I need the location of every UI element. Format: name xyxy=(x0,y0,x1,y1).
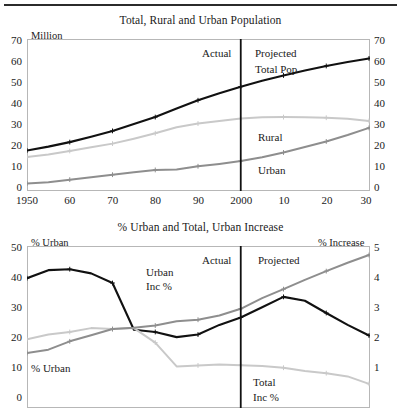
series-marker xyxy=(67,267,72,272)
series-marker xyxy=(196,317,201,322)
top-ytick-20: 20 xyxy=(0,139,22,151)
top-ytick-right-10: 10 xyxy=(374,160,396,172)
series-marker xyxy=(110,141,115,146)
series-line-urban-inc xyxy=(27,269,369,337)
chart-panel-top: Total, Rural and Urban Population Millio… xyxy=(0,14,401,214)
top-ytick-right-0: 0 xyxy=(374,181,396,193)
bottom-chart-svg xyxy=(27,246,370,408)
series-marker xyxy=(67,140,72,145)
top-ytick-0: 0 xyxy=(0,181,22,193)
bottom-ytick-40: 40 xyxy=(0,271,22,283)
top-xtick-1970: 70 xyxy=(107,194,118,206)
series-marker xyxy=(324,139,329,144)
top-ytick-right-20: 20 xyxy=(374,139,396,151)
series-marker xyxy=(196,363,201,368)
top-chart-svg xyxy=(27,39,370,191)
top-series-label-urban: Urban xyxy=(258,164,286,176)
series-marker xyxy=(27,351,29,356)
top-ytick-right-60: 60 xyxy=(374,55,396,67)
bottom-annotation-projected: Projected xyxy=(258,254,300,266)
series-marker xyxy=(153,330,158,335)
series-line-total-pop xyxy=(27,58,369,150)
bottom-ytick-50: 50 xyxy=(0,241,22,253)
series-marker xyxy=(153,168,158,173)
bottom-ytick-right-1: 1 xyxy=(374,361,396,373)
series-marker xyxy=(67,149,72,154)
top-ytick-40: 40 xyxy=(0,97,22,109)
series-marker xyxy=(110,327,115,332)
series-marker xyxy=(27,148,29,153)
bottom-ytick-right-2: 2 xyxy=(374,331,396,343)
bottom-ytick-10: 10 xyxy=(0,361,22,373)
top-ytick-50: 50 xyxy=(0,76,22,88)
bottom-series-label-urban-inc-2: Inc % xyxy=(146,280,172,292)
series-marker xyxy=(67,330,72,335)
series-marker xyxy=(153,131,158,136)
bottom-ytick-30: 30 xyxy=(0,301,22,313)
bottom-ytick-20: 20 xyxy=(0,331,22,343)
top-xtick-2020: 20 xyxy=(321,194,332,206)
top-xtick-1960: 60 xyxy=(64,194,75,206)
bottom-ytick-right-5: 5 xyxy=(374,241,396,253)
bottom-plot-area xyxy=(27,246,370,408)
series-marker xyxy=(281,150,286,155)
series-marker xyxy=(324,115,329,120)
bottom-series-label-total-inc-2: Inc % xyxy=(253,391,279,403)
bottom-chart-title: % Urban and Total, Urban Increase xyxy=(0,221,401,233)
series-marker xyxy=(110,128,115,133)
top-xtick-1950: 1950 xyxy=(16,194,38,206)
chart-panel-bottom: % Urban and Total, Urban Increase % Urba… xyxy=(0,216,401,407)
top-ytick-right-70: 70 xyxy=(374,34,396,46)
bottom-ytick-right-4: 4 xyxy=(374,271,396,283)
top-annotation-actual: Actual xyxy=(202,47,231,59)
top-plot-area xyxy=(27,39,370,191)
series-marker xyxy=(27,337,29,342)
series-marker xyxy=(110,172,115,177)
series-marker xyxy=(27,155,29,160)
series-marker xyxy=(281,365,286,370)
series-marker xyxy=(367,119,370,124)
top-xtick-2030: 30 xyxy=(361,194,372,206)
bottom-series-group xyxy=(27,253,370,387)
series-marker xyxy=(324,371,329,376)
series-marker xyxy=(196,164,201,169)
series-marker xyxy=(27,181,29,186)
top-ytick-10: 10 xyxy=(0,160,22,172)
header-rule xyxy=(4,4,397,6)
top-xtick-2000: 2000 xyxy=(230,194,252,206)
bottom-ytick-right-3: 3 xyxy=(374,301,396,313)
series-marker xyxy=(367,125,370,130)
bottom-series-label-urban-inc-1: Urban xyxy=(146,266,174,278)
series-marker xyxy=(153,323,158,328)
top-ytick-70: 70 xyxy=(0,34,22,46)
top-series-group xyxy=(27,56,370,186)
top-ytick-60: 60 xyxy=(0,55,22,67)
top-chart-title: Total, Rural and Urban Population xyxy=(0,14,401,26)
top-annotation-projected: Projected xyxy=(255,47,297,59)
series-marker xyxy=(281,115,286,120)
series-line-urban xyxy=(27,255,369,353)
series-marker xyxy=(67,177,72,182)
top-series-label-rural: Rural xyxy=(258,131,282,143)
bottom-series-label-total-inc-1: Total xyxy=(253,376,275,388)
top-xtick-2010: 10 xyxy=(279,194,290,206)
top-series-label-total: Total Pop xyxy=(255,63,297,75)
series-line-urban xyxy=(27,128,369,184)
top-xtick-1980: 80 xyxy=(150,194,161,206)
top-ytick-right-40: 40 xyxy=(374,97,396,109)
bottom-series-label-pct-urban: % Urban xyxy=(31,362,70,374)
top-ytick-right-30: 30 xyxy=(374,118,396,130)
top-xtick-1990: 90 xyxy=(193,194,204,206)
series-marker xyxy=(196,121,201,126)
series-marker xyxy=(324,64,329,69)
series-marker xyxy=(367,56,370,61)
top-ytick-30: 30 xyxy=(0,118,22,130)
bottom-ytick-0: 0 xyxy=(0,391,22,403)
top-ytick-right-50: 50 xyxy=(374,76,396,88)
bottom-annotation-actual: Actual xyxy=(202,254,231,266)
